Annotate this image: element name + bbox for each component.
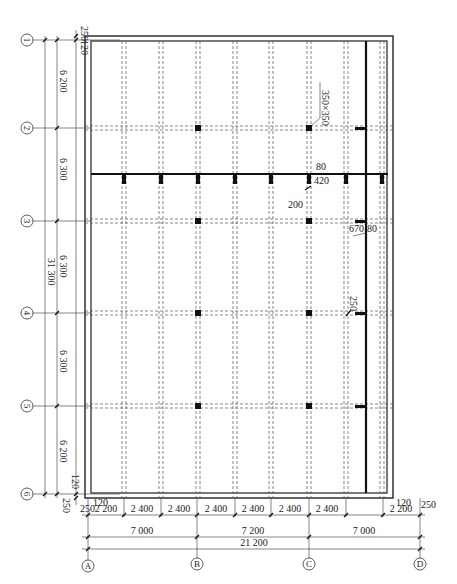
svg-text:4: 4 [22,311,32,316]
svg-text:120: 120 [396,497,411,508]
axis-bubble-C: C [303,558,315,570]
svg-text:6 200: 6 200 [58,70,69,93]
svg-text:7 000: 7 000 [131,525,154,536]
beam-stubs [122,174,384,184]
axis-bubble-3: 3 [21,215,33,227]
svg-text:31 300: 31 300 [46,258,57,286]
left-dimension-labels: 250 120 6 200 6 300 6 300 6 300 6 200 31… [46,26,90,513]
row-axis-bubbles: 1 2 3 4 5 6 [21,34,33,500]
svg-text:200: 200 [288,199,303,210]
svg-text:2 400: 2 400 [316,503,339,514]
svg-text:80: 80 [316,161,326,172]
axis-bubble-1: 1 [21,34,33,46]
svg-text:6: 6 [22,492,32,497]
row-dashed-beams [85,126,393,408]
svg-text:2 200: 2 200 [95,503,118,514]
bottom-dimension-labels: 250 120 2 200 2 400 2 400 2 400 2 400 2 … [80,497,436,548]
svg-text:420: 420 [314,175,329,186]
outer-wall [85,36,393,498]
svg-text:6 300: 6 300 [58,255,69,278]
svg-text:6 300: 6 300 [58,158,69,181]
svg-text:21 200: 21 200 [240,537,268,548]
svg-text:5: 5 [22,404,32,409]
column-axis-bubbles: A B C D [82,558,426,572]
svg-text:6 300: 6 300 [58,350,69,373]
axis-bubble-2: 2 [21,122,33,134]
axis-bubble-B: B [191,558,203,570]
svg-text:250: 250 [79,26,90,41]
svg-text:D: D [417,559,424,569]
svg-text:1: 1 [22,38,32,43]
svg-text:6 200: 6 200 [58,440,69,463]
svg-text:B: B [194,559,200,569]
svg-text:120: 120 [79,40,90,55]
main-beams [91,41,388,493]
svg-text:3: 3 [22,219,32,224]
svg-text:250: 250 [421,499,436,510]
svg-text:2 400: 2 400 [205,503,228,514]
svg-text:670: 670 [349,223,364,234]
column-dashed-beams [122,41,384,498]
svg-text:350×350: 350×350 [320,90,331,126]
columns [195,125,312,409]
axis-bubble-5: 5 [21,400,33,412]
svg-text:250: 250 [61,498,72,513]
structural-plan-drawing: 1 2 3 4 5 6 250 120 6 200 6 300 6 300 6 … [0,0,457,584]
axis-bubble-6: 6 [21,488,33,500]
svg-text:7 200: 7 200 [242,525,265,536]
axis-bubble-4: 4 [21,307,33,319]
axis-bubble-D: D [414,558,426,570]
svg-text:C: C [306,559,312,569]
svg-text:A: A [85,561,92,571]
svg-text:250: 250 [348,296,359,311]
cantilever-stubs [355,127,366,408]
svg-text:120: 120 [70,474,81,489]
axis-bubble-A: A [82,560,94,572]
svg-text:2 400: 2 400 [242,503,265,514]
svg-text:80: 80 [367,223,377,234]
annotations: 350×350 80 420 200 670 80 250 [288,82,377,316]
svg-text:2: 2 [22,126,32,131]
svg-text:2 400: 2 400 [279,503,302,514]
svg-text:7 000: 7 000 [353,525,376,536]
svg-text:2 400: 2 400 [168,503,191,514]
svg-text:2 400: 2 400 [131,503,154,514]
